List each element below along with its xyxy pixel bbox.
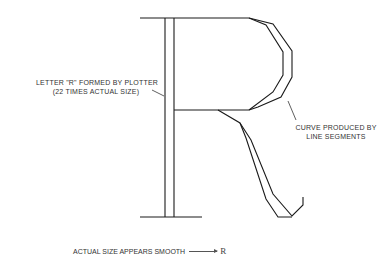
plotter-label-line2: (22 TIMES ACTUAL SIZE) [36,87,156,96]
caption-text: ACTUAL SIZE APPEARS SMOOTH [73,248,185,255]
curve-label-line2: LINE SEGMENTS [282,132,389,141]
actual-size-caption: ACTUAL SIZE APPEARS SMOOTH R [73,246,226,256]
plotter-letter-label: LETTER "R" FORMED BY PLOTTER (22 TIMES A… [36,78,156,96]
leg-left-segments [218,110,292,217]
plotter-label-line1: LETTER "R" FORMED BY PLOTTER [36,78,156,87]
curve-label-line1: CURVE PRODUCED BY [282,123,389,132]
small-letter-r: R [220,246,226,256]
curve-segments-label: CURVE PRODUCED BY LINE SEGMENTS [282,123,389,141]
arrow-right-icon [189,251,217,252]
leader-line-right [288,101,296,120]
